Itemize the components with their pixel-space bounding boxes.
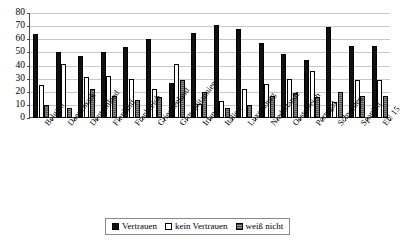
y-axis-tick-label: 70 xyxy=(16,21,26,31)
legend-label: weiß nicht xyxy=(246,222,284,231)
y-axis-tick-label: 20 xyxy=(16,87,26,97)
legend-item: kein Vertrauen xyxy=(165,222,228,231)
bar xyxy=(39,85,44,118)
legend-swatch-icon xyxy=(165,223,172,230)
legend-swatch-icon xyxy=(236,223,243,230)
bar xyxy=(33,34,38,118)
y-axis-tick-label: 10 xyxy=(16,100,26,110)
legend-label: Vertrauen xyxy=(122,222,157,231)
chart-legend: Vertrauenkein Vertrauenweiß nicht xyxy=(105,218,290,235)
y-axis: 01020304050607080 xyxy=(0,0,27,131)
legend-swatch-icon xyxy=(112,223,119,230)
bar xyxy=(242,89,247,118)
legend-item: Vertrauen xyxy=(112,222,157,231)
y-axis-tick-label: 40 xyxy=(16,61,26,71)
x-axis-category-labels: BelgienDaenemarkDeutschlandFinnlandFrank… xyxy=(0,120,402,192)
bar-group xyxy=(30,13,53,118)
bar-chart: 01020304050607080 BelgienDaenemarkDeutsc… xyxy=(0,0,402,246)
y-axis-tick-label: 60 xyxy=(16,34,26,44)
legend-label: kein Vertrauen xyxy=(175,222,228,231)
y-axis-tick-label: 50 xyxy=(16,47,26,57)
bar xyxy=(219,101,224,118)
bar xyxy=(214,25,219,118)
y-axis-tick-label: 80 xyxy=(16,8,26,18)
bar-group xyxy=(211,13,234,118)
legend-item: weiß nicht xyxy=(236,222,284,231)
y-axis-tick-label: 30 xyxy=(16,74,26,84)
bar-group xyxy=(233,13,256,118)
